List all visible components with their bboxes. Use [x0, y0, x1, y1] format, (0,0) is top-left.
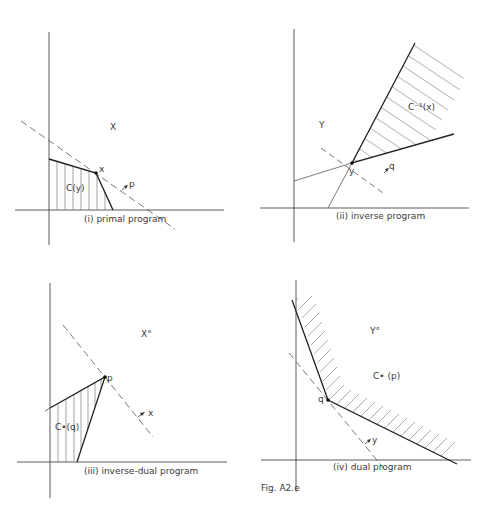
set-label: C•(q) — [55, 422, 79, 432]
set-label: C• (p) — [373, 371, 400, 381]
optimal-point — [326, 398, 330, 402]
normal-arrow-icon — [365, 439, 371, 444]
panel-primal-program: X x C(y) p (i) primal program — [15, 32, 224, 245]
space-label: X — [110, 122, 116, 132]
supporting-hyperplane — [289, 353, 385, 470]
point-label: x — [99, 164, 105, 174]
thin-ray-left — [294, 163, 352, 181]
normal-arrow-icon — [138, 412, 145, 417]
set-label: C⁻¹(x) — [408, 102, 435, 112]
normal-label: p — [129, 179, 135, 189]
normal-arrow-icon — [122, 185, 128, 190]
panel-inverse-dual-program: X° p x C•(q) (iii) inverse-dual program — [17, 283, 227, 498]
space-label: X° — [141, 329, 152, 339]
hatching — [340, 40, 466, 190]
hatching — [57, 150, 105, 212]
supporting-hyperplane — [21, 121, 175, 229]
point-label: q — [318, 394, 324, 404]
figure-canvas: X x C(y) p (i) primal program Y C⁻¹(x) y… — [0, 0, 497, 525]
panel-caption: (iv) dual program — [333, 462, 411, 472]
panel-caption: (i) primal program — [84, 214, 166, 224]
point-label: y — [349, 166, 355, 176]
set-label: C(y) — [66, 183, 85, 193]
normal-label: x — [148, 408, 154, 418]
point-label: p — [107, 373, 113, 383]
thin-extension — [45, 408, 50, 411]
panel-dual-program: Y° C• (p) q y (iv) dual program — [261, 280, 471, 492]
space-label: Y — [318, 120, 325, 130]
panel-caption: (iii) inverse-dual program — [84, 466, 198, 476]
panel-caption: (ii) inverse program — [336, 211, 425, 221]
hatching — [58, 370, 101, 464]
panel-inverse-program: Y C⁻¹(x) y q (ii) inverse program — [260, 29, 469, 242]
optimal-point — [350, 161, 354, 165]
space-label: Y° — [369, 326, 380, 336]
optimal-point — [94, 171, 98, 175]
normal-label: y — [372, 435, 378, 445]
normal-label: q — [389, 161, 395, 171]
cone-boundary — [352, 43, 454, 163]
figure-caption: Fig. A2.e — [261, 483, 300, 493]
